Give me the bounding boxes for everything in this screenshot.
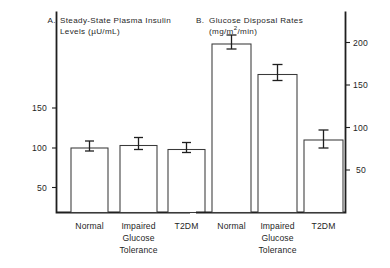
cat-b-t2dm-l1: T2DM — [312, 221, 336, 231]
panel-b-title-line1: Glucose Disposal Rates — [209, 16, 303, 25]
panel-b-category-labels: Normal Impaired Glucose Tolerance T2DM — [217, 221, 335, 255]
panel-a-title-line2: Levels (µU/mL) — [60, 27, 120, 36]
panel-b-bars — [212, 35, 343, 213]
panel-b-ticklabel-200: 200 — [353, 38, 368, 48]
panel-b: B. Glucose Disposal Rates (mg/m2/min) 20… — [196, 12, 368, 256]
cat-a-igt-l2: Glucose — [122, 233, 154, 243]
panel-a-category-labels: Normal Impaired Glucose Tolerance T2DM — [75, 221, 198, 255]
panel-a-yticks: 150 100 50 — [32, 103, 57, 193]
cat-b-igt-l3: Tolerance — [258, 245, 296, 255]
panel-b-title-units-pre: (mg/m — [209, 27, 234, 36]
panel-b-letter: B. — [196, 16, 204, 25]
cat-a-normal-l1: Normal — [75, 221, 103, 231]
cat-b-igt-l1: Impaired — [260, 221, 294, 231]
bar-a-t2dm — [168, 150, 205, 213]
chart-svg: A. Steady-State Plasma Insulin Levels (µ… — [0, 0, 390, 268]
bar-a-igt — [120, 146, 157, 213]
cat-a-t2dm-l1: T2DM — [175, 221, 199, 231]
panel-b-yticks: 200 150 100 50 — [345, 38, 368, 176]
panel-b-ticklabel-100: 100 — [353, 123, 368, 133]
cat-b-igt-l2: Glucose — [261, 233, 293, 243]
bar-b-t2dm — [304, 140, 343, 213]
cat-a-igt-l3: Tolerance — [119, 245, 157, 255]
panel-a-letter: A. — [48, 16, 56, 25]
bar-b-igt — [258, 75, 297, 213]
cat-b-normal-l1: Normal — [217, 221, 245, 231]
panel-b-title-units-post: /min) — [237, 27, 257, 36]
panel-a: A. Steady-State Plasma Insulin Levels (µ… — [32, 12, 205, 256]
panel-a-ticklabel-50: 50 — [37, 183, 47, 193]
panel-a-ticklabel-100: 100 — [32, 143, 47, 153]
panel-b-ticklabel-50: 50 — [356, 165, 366, 175]
panel-b-title-line2: (mg/m2/min) — [209, 24, 257, 35]
bar-a-normal — [71, 148, 108, 213]
figure-canvas: A. Steady-State Plasma Insulin Levels (µ… — [0, 0, 390, 268]
panel-a-title-line1: Steady-State Plasma Insulin — [60, 16, 171, 25]
cat-a-igt-l1: Impaired — [121, 221, 155, 231]
panel-a-bars — [71, 138, 205, 213]
bar-b-normal — [212, 44, 251, 213]
panel-a-ticklabel-150: 150 — [32, 103, 47, 113]
panel-b-ticklabel-150: 150 — [353, 80, 368, 90]
